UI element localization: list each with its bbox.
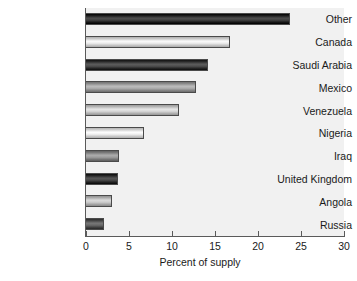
x-tick-label-5: 5 <box>114 240 144 252</box>
bar-gradient <box>86 60 207 70</box>
bar-rect <box>86 36 230 48</box>
x-tick-mark-5 <box>129 231 130 237</box>
bar-rect <box>86 13 290 25</box>
bar-rect <box>86 195 112 207</box>
x-tick-mark-30 <box>344 231 345 237</box>
bar-rect <box>86 150 119 162</box>
x-tick-mark-10 <box>172 231 173 237</box>
bar-gradient <box>86 14 289 24</box>
bar-rect <box>86 104 179 116</box>
bar-gradient <box>86 151 118 161</box>
category-label-united-kingdom: United Kingdom <box>269 173 352 185</box>
x-tick-mark-25 <box>301 231 302 237</box>
category-label-mexico: Mexico <box>269 82 352 94</box>
x-axis-title: Percent of supply <box>0 256 352 268</box>
x-tick-label-15: 15 <box>200 240 230 252</box>
category-label-canada: Canada <box>269 36 352 48</box>
bar-rect <box>86 218 104 230</box>
category-label-nigeria: Nigeria <box>269 127 352 139</box>
x-tick-label-0: 0 <box>71 240 101 252</box>
category-label-iraq: Iraq <box>269 150 352 162</box>
category-label-russia: Russia <box>269 219 352 231</box>
x-tick-label-20: 20 <box>243 240 273 252</box>
bar-gradient <box>86 196 111 206</box>
x-tick-mark-15 <box>215 231 216 237</box>
bar-gradient <box>86 174 117 184</box>
bar-gradient <box>86 37 229 47</box>
x-tick-label-30: 30 <box>329 240 357 252</box>
bar-rect <box>86 173 118 185</box>
x-tick-mark-0 <box>86 231 87 237</box>
x-tick-label-10: 10 <box>157 240 187 252</box>
bar-gradient <box>86 82 195 92</box>
category-label-venezuela: Venezuela <box>269 105 352 117</box>
x-tick-mark-20 <box>258 231 259 237</box>
bar-gradient <box>86 219 103 229</box>
category-label-angola: Angola <box>269 196 352 208</box>
bar-rect <box>86 127 144 139</box>
category-label-other: Other <box>269 13 352 25</box>
bar-rect <box>86 81 196 93</box>
category-label-saudi-arabia: Saudi Arabia <box>269 59 352 71</box>
x-tick-label-25: 25 <box>286 240 316 252</box>
bar-gradient <box>86 105 178 115</box>
bar-rect <box>86 59 208 71</box>
bar-gradient <box>86 128 143 138</box>
